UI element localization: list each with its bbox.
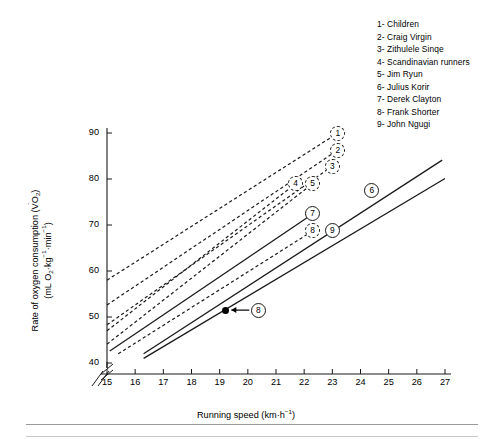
data-series-lines [107,133,445,358]
legend-item-5: 5- Jim Ryun [377,68,492,81]
legend-item-label: Jim Ryun [387,69,423,79]
x-axis-title: Running speed (km·h−1) [0,410,492,420]
series-line-9 [144,179,445,359]
legend-item-8: 8- Frank Shorter [377,106,492,119]
series-marker-2: 2 [330,143,345,158]
y-axis-title: Rate of oxygen consumption (VO2) (mL O2·… [29,146,54,376]
legend-item-label: Frank Shorter [387,107,439,117]
series-line-4 [107,184,296,331]
y-tick-label: 90 [73,127,99,137]
legend-item-3: 3- Zithulele Sinqe [377,43,492,56]
series-line-1 [107,133,338,280]
y-tick-label: 60 [73,265,99,275]
legend-item-label: Zithulele Sinqe [387,44,444,54]
x-tick-label: 18 [178,377,206,387]
legend-item-1: 1- Children [377,18,492,31]
series-line-2 [107,150,338,305]
legend-item-9: 9- John Ngugi [377,118,492,131]
x-tick-label: 22 [290,377,318,387]
x-tick-label: 15 [93,377,121,387]
series-line-8 [118,231,312,354]
y-tick-label: 70 [73,219,99,229]
x-tick-label: 17 [149,377,177,387]
x-tick-label: 27 [431,377,459,387]
series-marker-3: 3 [325,159,340,174]
legend-item-2: 2- Craig Virgin [377,31,492,44]
y-tick-label: 80 [73,173,99,183]
figure-container: 405060708090 15161718192021222324252627 … [0,0,492,439]
legend-item-label: Derek Clayton [387,94,441,104]
x-tick-label: 24 [347,377,375,387]
legend-item-label: Julius Korir [387,82,429,92]
series-marker-1: 1 [330,126,345,141]
x-tick-label: 19 [206,377,234,387]
bottom-rule-secondary [26,436,478,437]
legend: 1- Children2- Craig Virgin3- Zithulele S… [377,18,492,131]
bottom-rule-primary [26,424,478,425]
series-line-7 [110,214,313,351]
y-axis-ticks [107,133,112,363]
series-marker-6: 6 [364,183,379,198]
x-tick-label: 23 [318,377,346,387]
y-tick-label: 50 [73,311,99,321]
x-tick-label: 21 [262,377,290,387]
x-tick-label: 25 [375,377,403,387]
x-tick-label: 26 [403,377,431,387]
legend-item-label: John Ngugi [387,119,430,129]
annotated-data-point [222,307,229,314]
legend-item-6: 6- Julius Korir [377,81,492,94]
y-axis-title-line1: Rate of oxygen consumption (VO2) [29,146,42,376]
legend-item-label: Scandinavian runners [387,57,470,67]
x-axis-ticks [107,369,445,374]
annotation-arrow [231,307,249,313]
legend-item-label: Craig Virgin [387,32,432,42]
y-tick-label: 40 [73,357,99,367]
legend-item-4: 4- Scandinavian runners [377,56,492,69]
annotation-marker-8: 8 [251,303,266,318]
x-tick-label: 20 [234,377,262,387]
legend-item-label: Children [387,19,419,29]
y-axis-title-line2: (mL O2·kg−1·min−1) [41,146,54,376]
legend-item-7: 7- Derek Clayton [377,93,492,106]
x-tick-label: 16 [121,377,149,387]
